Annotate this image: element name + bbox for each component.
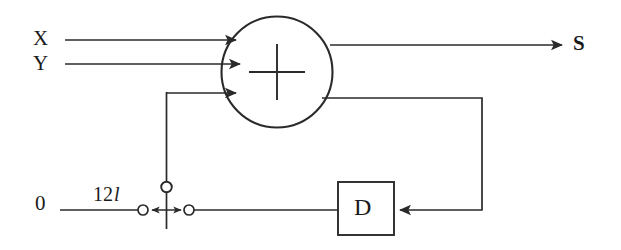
diagram-canvas: X Y S 0 D 12l bbox=[0, 0, 621, 250]
switch-pivot-terminal[interactable] bbox=[161, 182, 172, 193]
switch-annotation-symbol: l bbox=[113, 183, 120, 205]
switch-left-terminal[interactable] bbox=[138, 205, 148, 215]
diagram-graphics bbox=[0, 0, 621, 250]
input-label-y: Y bbox=[33, 53, 48, 74]
switch-right-terminal[interactable] bbox=[184, 205, 194, 215]
ground-label: 0 bbox=[35, 193, 46, 214]
switch-annotation-number: 12 bbox=[93, 183, 113, 205]
input-label-x: X bbox=[33, 28, 48, 49]
switch-annotation: 12l bbox=[93, 184, 120, 204]
delay-block-label: D bbox=[354, 195, 371, 219]
output-label-s: S bbox=[573, 33, 585, 54]
